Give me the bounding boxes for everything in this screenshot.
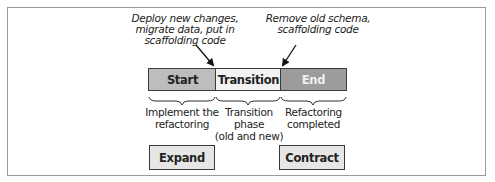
brace-start-icon	[149, 97, 215, 105]
arrows-and-braces	[0, 0, 495, 182]
phase-start: Start	[148, 68, 216, 91]
phase-transition: Transition	[215, 68, 281, 91]
deploy-arrow-icon	[196, 45, 213, 65]
transition-description: Transition phase (old and new)	[210, 106, 288, 142]
phase-end: End	[280, 68, 347, 91]
brace-transition-icon	[216, 97, 280, 105]
brace-end-icon	[281, 97, 346, 105]
end-description: Refactoring completed	[280, 106, 347, 130]
remove-arrow-icon	[283, 45, 296, 65]
expand-box: Expand	[149, 145, 215, 170]
contract-box: Contract	[279, 145, 345, 170]
